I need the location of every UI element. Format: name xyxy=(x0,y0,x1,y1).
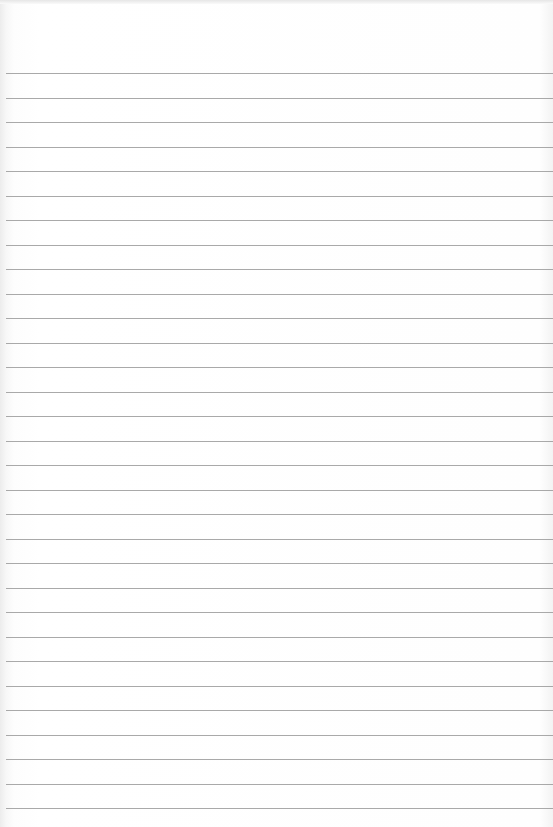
ruled-line xyxy=(6,563,553,564)
ruled-line xyxy=(6,220,553,221)
ruled-line xyxy=(6,392,553,393)
ruled-line xyxy=(6,171,553,172)
ruled-line xyxy=(6,294,553,295)
paper-top-edge xyxy=(0,0,553,4)
ruled-line xyxy=(6,196,553,197)
ruled-line xyxy=(6,98,553,99)
ruled-line xyxy=(6,735,553,736)
ruled-line xyxy=(6,612,553,613)
ruled-line xyxy=(6,318,553,319)
ruled-line xyxy=(6,343,553,344)
lined-paper-sheet xyxy=(0,0,553,827)
ruled-line xyxy=(6,808,553,809)
ruled-line xyxy=(6,539,553,540)
ruled-line xyxy=(6,759,553,760)
ruled-line xyxy=(6,122,553,123)
ruled-line xyxy=(6,490,553,491)
ruled-line xyxy=(6,637,553,638)
ruled-line xyxy=(6,269,553,270)
ruled-line xyxy=(6,147,553,148)
ruled-line xyxy=(6,710,553,711)
ruled-line xyxy=(6,416,553,417)
ruled-line xyxy=(6,784,553,785)
ruled-line xyxy=(6,661,553,662)
ruled-line xyxy=(6,367,553,368)
ruled-line xyxy=(6,73,553,74)
ruled-line xyxy=(6,686,553,687)
ruled-line xyxy=(6,465,553,466)
ruled-line xyxy=(6,245,553,246)
ruled-line xyxy=(6,441,553,442)
ruled-line xyxy=(6,588,553,589)
ruled-line xyxy=(6,514,553,515)
